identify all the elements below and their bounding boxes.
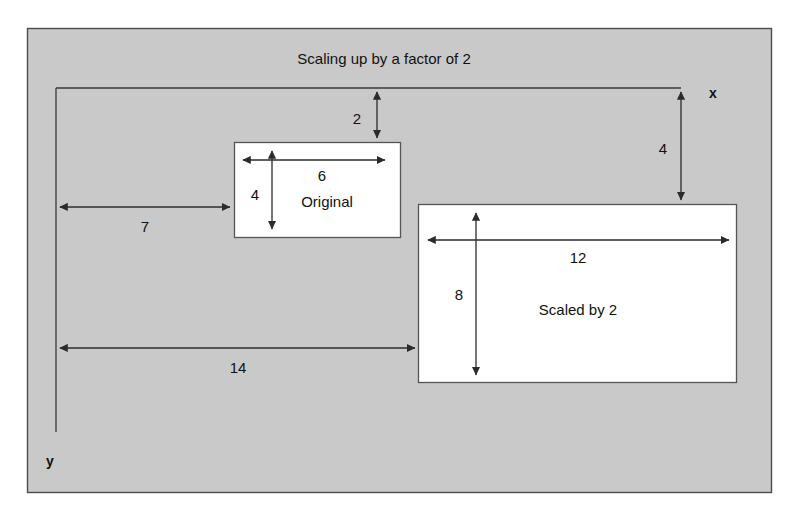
dimension-label-scaled-width: 12	[570, 250, 587, 265]
dimension-label-original-height: 4	[251, 187, 259, 202]
dimension-label-original-offset-y: 2	[353, 111, 361, 126]
axis-label-y: y	[46, 454, 54, 468]
dimension-label-original-width: 6	[318, 168, 326, 183]
dimension-label-scaled-offset-y: 4	[659, 141, 667, 156]
scaling-diagram: Scaling up by a factor of 2 2 4 7 14 4 6…	[0, 0, 794, 516]
diagram-title: Scaling up by a factor of 2	[297, 51, 470, 66]
shape-scaled	[419, 205, 737, 383]
diagram-canvas	[0, 0, 794, 516]
shape-label-scaled: Scaled by 2	[539, 302, 617, 317]
shape-label-original: Original	[301, 194, 353, 209]
shape-original	[235, 143, 401, 238]
dimension-label-scaled-offset-x: 14	[230, 360, 247, 375]
dimension-label-scaled-height: 8	[455, 287, 463, 302]
dimension-label-original-offset-x: 7	[141, 219, 149, 234]
axis-label-x: x	[709, 86, 717, 100]
